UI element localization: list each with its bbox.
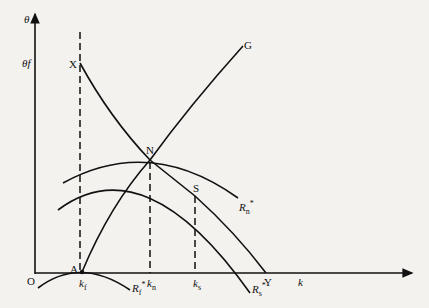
point-s-label: S	[193, 183, 199, 194]
point-g-label: G	[244, 40, 252, 51]
line-a-to-g	[82, 46, 243, 272]
curve-rf-label: Rf*	[132, 281, 145, 297]
curve-rn-label: Rn*	[239, 200, 254, 216]
point-n-label: N	[146, 145, 154, 156]
curve-rs-label: Rs*	[252, 282, 266, 298]
x-axis-label: k	[298, 277, 303, 288]
point-a-label: A	[70, 264, 78, 275]
point-x-label: X	[69, 59, 77, 70]
tick-kf-label: kf	[79, 278, 87, 292]
tick-kn-label: kn	[147, 278, 156, 292]
theta-f-text: θf	[22, 57, 30, 69]
tick-ks-label: ks	[193, 278, 201, 292]
diagram-canvas: θ θf O k X N S G A Y kf kn ks Rn* Rs* Rf…	[0, 0, 429, 308]
y-axis-label: θ	[24, 14, 29, 25]
point-a-dot	[80, 270, 84, 274]
theta-f-label: θf	[22, 58, 30, 69]
line-x-to-y	[80, 63, 266, 273]
diagram-svg	[0, 0, 429, 308]
origin-label: O	[27, 276, 35, 287]
